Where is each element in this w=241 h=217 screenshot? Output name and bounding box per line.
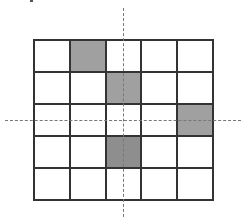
grid-cell-r3-c4: [177, 136, 213, 168]
grid-cell-r4-c0: [34, 168, 70, 200]
grid-cell-r1-c3: [141, 72, 177, 104]
grid-cell-r1-c4: [177, 72, 213, 104]
grid-cell-r3-c3: [141, 136, 177, 168]
grid-cell-r0-c1: [70, 40, 106, 72]
grid-cell-r1-c0: [34, 72, 70, 104]
grid-cell-r0-c3: [141, 40, 177, 72]
horizontal-dashed-axis: [5, 120, 241, 121]
grid-cell-r0-c4: [177, 40, 213, 72]
grid-cell-r3-c0: [34, 136, 70, 168]
corner-mark: [30, 0, 33, 2]
grid-cell-r0-c0: [34, 40, 70, 72]
vertical-dashed-axis: [123, 8, 124, 217]
grid-cell-r4-c1: [70, 168, 106, 200]
grid-cell-r1-c1: [70, 72, 106, 104]
grid-cell-r4-c3: [141, 168, 177, 200]
grid-cell-r4-c4: [177, 168, 213, 200]
grid-cell-r3-c1: [70, 136, 106, 168]
